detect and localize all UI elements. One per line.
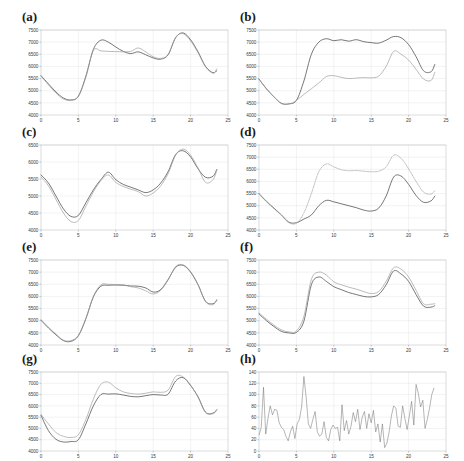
svg-text:6000: 6000 [28,160,39,165]
svg-text:7500: 7500 [246,28,257,33]
svg-text:20: 20 [406,233,412,238]
svg-text:5: 5 [77,233,80,238]
svg-text:20: 20 [406,454,412,459]
svg-text:10: 10 [113,233,119,238]
svg-text:5: 5 [77,118,80,123]
panel-c-svg: 4000450050005500600065000510152025 [22,142,232,240]
svg-text:0: 0 [258,233,261,238]
svg-text:4000: 4000 [246,113,257,118]
svg-text:7500: 7500 [28,28,39,33]
svg-text:6500: 6500 [28,52,39,57]
svg-text:5000: 5000 [28,426,39,431]
panel-f: (f) 400045005000550060006500700075000510… [240,240,450,355]
svg-text:0: 0 [254,449,257,454]
svg-text:0: 0 [258,454,261,459]
svg-text:4500: 4500 [246,216,257,221]
svg-text:15: 15 [369,118,375,123]
panel-b-svg: 4000450050005500600065007000750005101520… [240,27,450,125]
svg-text:25: 25 [225,118,231,123]
svg-text:10: 10 [331,233,337,238]
svg-text:5: 5 [295,454,298,459]
svg-text:15: 15 [151,233,157,238]
svg-text:5000: 5000 [28,88,39,93]
svg-text:20: 20 [188,454,194,459]
svg-text:6000: 6000 [246,64,257,69]
panel-b-label: (b) [240,10,256,23]
panel-e-plot: 4000450050005500600065007000750005101520… [22,257,232,355]
svg-text:140: 140 [249,370,257,375]
svg-text:25: 25 [443,233,449,238]
svg-text:5500: 5500 [246,76,257,81]
svg-text:0: 0 [258,118,261,123]
panel-d-label: (d) [240,125,256,138]
svg-text:7000: 7000 [246,40,257,45]
panel-g: (g) 400045005000550060006500700075000510… [22,352,232,461]
svg-text:7500: 7500 [28,258,39,263]
svg-text:7000: 7000 [28,40,39,45]
svg-text:10: 10 [113,454,119,459]
panel-e: (e) 400045005000550060006500700075000510… [22,240,232,355]
svg-text:4000: 4000 [28,113,39,118]
figure-canvas: (a) 400045005000550060006500700075000510… [0,0,464,461]
svg-text:6500: 6500 [246,52,257,57]
svg-text:20: 20 [188,233,194,238]
svg-text:6500: 6500 [28,282,39,287]
svg-text:7500: 7500 [246,143,257,148]
panel-g-svg: 4000450050005500600065007000750005101520… [22,369,232,461]
svg-text:4500: 4500 [246,101,257,106]
svg-text:5500: 5500 [28,415,39,420]
svg-text:4500: 4500 [28,101,39,106]
panel-a-plot: 4000450050005500600065007000750005101520… [22,27,232,125]
panel-b: (b) 400045005000550060006500700075000510… [240,10,450,125]
svg-text:25: 25 [225,233,231,238]
svg-text:4000: 4000 [246,343,257,348]
svg-text:6500: 6500 [246,167,257,172]
panel-h-plot: 0204060801001201400510152025 [240,369,450,461]
svg-text:6000: 6000 [246,294,257,299]
svg-text:7000: 7000 [246,270,257,275]
svg-text:4500: 4500 [246,331,257,336]
svg-text:20: 20 [188,118,194,123]
svg-text:5000: 5000 [28,194,39,199]
panel-f-label: (f) [240,240,253,253]
panel-d-svg: 4000450050005500600065007000750005101520… [240,142,450,240]
svg-text:25: 25 [225,454,231,459]
svg-text:4500: 4500 [28,437,39,442]
svg-text:5: 5 [77,454,80,459]
svg-text:80: 80 [251,404,257,409]
panel-g-label: (g) [22,352,37,365]
svg-text:7000: 7000 [28,270,39,275]
svg-text:7000: 7000 [28,381,39,386]
svg-text:5000: 5000 [246,203,257,208]
svg-text:0: 0 [40,233,43,238]
panel-h-svg: 0204060801001201400510152025 [240,369,450,461]
panel-f-svg: 4000450050005500600065007000750005101520… [240,257,450,355]
svg-text:25: 25 [443,454,449,459]
svg-text:20: 20 [406,118,412,123]
svg-text:5000: 5000 [246,318,257,323]
svg-text:5: 5 [295,233,298,238]
svg-text:7500: 7500 [28,370,39,375]
svg-text:6000: 6000 [28,294,39,299]
svg-text:15: 15 [369,454,375,459]
svg-text:25: 25 [443,118,449,123]
svg-text:6500: 6500 [28,392,39,397]
svg-text:4000: 4000 [28,343,39,348]
svg-text:5500: 5500 [246,191,257,196]
svg-text:4500: 4500 [28,331,39,336]
svg-text:100: 100 [249,392,257,397]
panel-h: (h) 0204060801001201400510152025 [240,352,450,461]
svg-text:15: 15 [151,454,157,459]
svg-text:6000: 6000 [28,64,39,69]
svg-text:7000: 7000 [246,155,257,160]
panel-a-label: (a) [22,10,37,23]
svg-text:5500: 5500 [246,306,257,311]
svg-text:15: 15 [369,233,375,238]
svg-text:15: 15 [151,118,157,123]
svg-text:5500: 5500 [28,177,39,182]
svg-text:4000: 4000 [28,228,39,233]
panel-e-svg: 4000450050005500600065007000750005101520… [22,257,232,355]
svg-text:5500: 5500 [28,76,39,81]
svg-text:4500: 4500 [28,211,39,216]
panel-c-label: (c) [22,125,36,138]
